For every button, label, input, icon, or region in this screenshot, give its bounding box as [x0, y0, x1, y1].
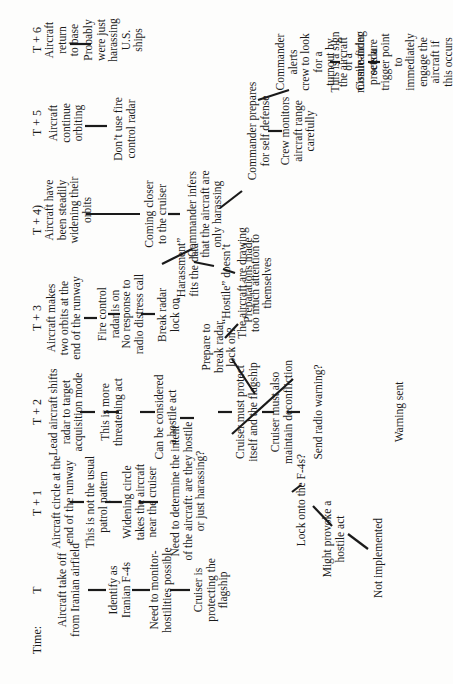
node-two-orbits: Aircraft makes two orbits at the end of … — [45, 276, 83, 359]
node-return-to-base: Aircraft return to base — [43, 20, 81, 60]
time-step-t0: T — [31, 586, 44, 593]
rotated-diagram-page: Time: T T + 1 T + 2 T + 3 T + 4) T + 5 T… — [0, 0, 453, 684]
node-crew-monitors-range: Crew monitors aircraft range carefully — [279, 97, 317, 166]
node-might-provoke: Might provoke a hostile act — [321, 501, 346, 578]
node-prepares-self-defense: Commander prepares for self defense — [246, 82, 271, 181]
node-cruiser-must-protect: Cruiser must protect itself and the flag… — [234, 362, 259, 461]
time-axis-label: Time: — [31, 626, 44, 654]
node-warning-sent: Warning sent — [393, 382, 406, 443]
time-step-t6: T + 6 — [31, 27, 44, 53]
node-probably-harassing: Probably were just harassing U.S. ships — [82, 18, 145, 61]
node-widening-orbits: Aircraft have been steadily widening the… — [43, 177, 93, 244]
node-hostile-act: Can be considered a hostile act — [153, 375, 178, 460]
node-not-implemented: Not implemented — [372, 518, 385, 598]
node-no-response-distress: No response to radio distress call — [120, 274, 145, 354]
node-lead-aircraft-shifts-radar: Lead aircraft shifts radar to target acq… — [47, 369, 85, 456]
node-aircraft-take-off: Aircraft take off from Iranian airfield — [56, 543, 81, 637]
time-step-t4: T + 4) — [31, 205, 44, 235]
node-widening-circle: Widening circle takes the aircraft near … — [121, 464, 159, 541]
node-preparations-made: Preparations made — [242, 237, 255, 322]
node-not-usual-patrol: This is not the usual patrol pattern — [84, 456, 109, 549]
node-coming-closer: Coming closer to the cruiser — [143, 180, 168, 247]
node-fire-control-radar-on: Fire control radar is on — [96, 287, 121, 341]
node-prepare-break-lock: Prepare to break radar lock on? — [200, 321, 238, 373]
node-trigger-point: Commander sets a trigger point to immedi… — [354, 31, 453, 93]
time-step-t5: T + 5 — [31, 110, 44, 136]
time-step-t3: T + 3 — [31, 305, 44, 331]
node-commander-infers: Commander infers that the aircraft are o… — [186, 170, 224, 257]
node-identify-f4s: Identify as Iranian F-4s — [107, 562, 132, 618]
node-lock-onto-f4s: Lock onto the F-4s? — [295, 454, 308, 546]
time-step-t1: T + 1 — [31, 490, 44, 516]
node-continue-orbiting: Aircraft continue orbiting — [47, 103, 85, 143]
connector — [348, 534, 368, 549]
node-dont-use-fire-control: Don’t use fire control radar — [112, 97, 137, 161]
time-step-t2: T + 2 — [31, 399, 44, 425]
node-maintain-deconfliction: Cruiser must also maintain deconfliction — [269, 360, 294, 464]
node-aircraft-circle-runway: Aircraft circle at the end of the runway — [50, 456, 75, 549]
node-more-threatening: This is more threatening act — [99, 378, 124, 446]
node-cruiser-protecting-flagship: Cruiser is protecting the flagship — [192, 558, 230, 622]
node-send-radio-warning: Send radio warning? — [312, 364, 325, 459]
